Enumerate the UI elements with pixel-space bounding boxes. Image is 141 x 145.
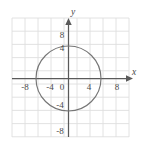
y-tick-label-pos4: 4 [60, 43, 65, 53]
y-tick-label-neg4: -4 [56, 100, 64, 110]
coordinate-plane-graph: x y -8 -4 0 4 8 8 4 -4 -8 [0, 0, 141, 145]
y-axis-label: y [70, 7, 76, 17]
x-axis [12, 75, 133, 81]
y-tick-label-neg8: -8 [56, 126, 64, 136]
y-axis [65, 18, 71, 137]
x-axis-label: x [131, 67, 137, 77]
y-axis-arrowhead-icon [65, 18, 71, 25]
origin-label: 0 [60, 82, 65, 92]
graph-svg-canvas: x y -8 -4 0 4 8 8 4 -4 -8 [0, 0, 141, 145]
grid-lines [12, 18, 129, 137]
x-tick-label-pos8: 8 [115, 82, 120, 92]
y-tick-label-pos8: 8 [60, 30, 65, 40]
x-tick-label-neg8: -8 [21, 82, 29, 92]
x-tick-label-neg4: -4 [46, 82, 54, 92]
x-tick-label-pos4: 4 [87, 82, 92, 92]
